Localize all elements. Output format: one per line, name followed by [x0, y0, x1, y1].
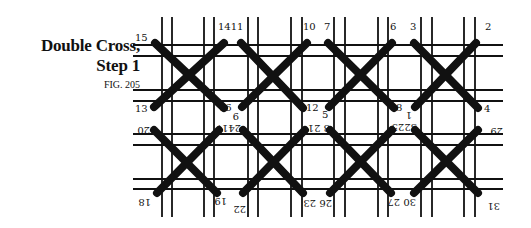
cross-stitches	[154, 43, 478, 193]
step-label-inverted: 9	[233, 111, 239, 122]
step-label-inverted: 31	[487, 201, 500, 212]
step-label-inverted: 30 27	[387, 197, 416, 208]
step-label: 5	[322, 109, 328, 120]
cross-stitch	[414, 43, 478, 108]
step-label-inverted: 19	[214, 196, 227, 207]
step-label: 6	[390, 21, 396, 32]
canvas-grid	[133, 17, 503, 217]
step-label-inverted: 18	[138, 197, 151, 208]
step-label: 4	[484, 103, 490, 114]
cross-stitch	[241, 43, 307, 108]
step-number-labels: 151411107632131612584912024178 213225291…	[135, 21, 503, 215]
step-label: 15	[135, 32, 148, 43]
step-label-inverted: 3225	[392, 122, 417, 133]
step-label: 7	[324, 21, 330, 32]
step-label: 2	[485, 21, 491, 32]
step-label-inverted: 29	[490, 126, 503, 137]
cross-stitch	[154, 130, 219, 193]
step-label-inverted: 22	[233, 204, 246, 215]
cross-stitch	[328, 43, 394, 108]
step-label: 8	[396, 102, 402, 113]
cross-stitch	[330, 130, 392, 193]
step-label-inverted: 26 23	[303, 198, 332, 209]
step-label: 10	[303, 21, 316, 32]
step-label-inverted: 20	[137, 125, 150, 136]
step-label: 1411	[218, 21, 243, 32]
step-label: 12	[306, 102, 319, 113]
step-label-inverted: 1	[406, 110, 412, 121]
step-label-inverted: 2417	[216, 123, 241, 134]
double-cross-stitch-diagram: 151411107632131612584912024178 213225291…	[0, 0, 531, 228]
cross-stitch	[414, 130, 478, 193]
cross-stitch	[243, 130, 305, 193]
step-label: 16	[219, 102, 232, 113]
step-label: 3	[410, 21, 416, 32]
step-label: 13	[135, 103, 148, 114]
step-label-inverted: 8 21	[308, 123, 330, 134]
